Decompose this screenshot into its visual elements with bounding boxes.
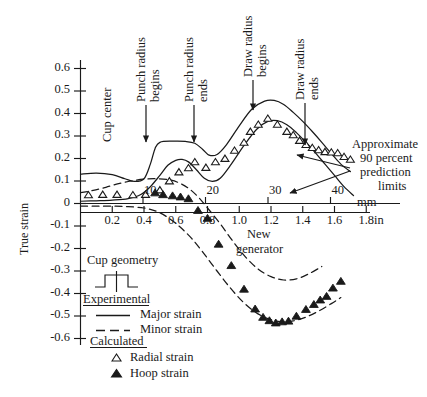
- radial-strain-marker: [230, 147, 238, 153]
- x-tick-label-in: 1.4: [293, 214, 313, 227]
- hoop-strain-marker: [240, 285, 249, 292]
- x-tick-label-mm: 30: [269, 184, 282, 197]
- y-tick-label: -0.4: [0, 286, 70, 299]
- annotation-prediction-limits-line3: prediction: [360, 166, 411, 179]
- legend-entry-major-strain: Major strain: [140, 308, 201, 321]
- x-tick-label-in: 1.6: [325, 214, 345, 227]
- hoop-strain-marker: [322, 292, 331, 299]
- series-paths: [81, 100, 354, 322]
- annotation-prediction-limits-line4: limits: [378, 180, 406, 193]
- y-tick-label: 0.3: [0, 128, 70, 141]
- y-tick-label: -0.2: [0, 241, 70, 254]
- radial-strain-marker: [129, 192, 137, 198]
- y-tick-label: -0.5: [0, 308, 70, 321]
- legend-cup-geometry-title: Cup geometry: [87, 254, 158, 267]
- legend-entry-minor-strain: Minor strain: [140, 323, 202, 336]
- x-tick-label-in: 1.0: [229, 214, 249, 227]
- radial-strain-marker: [211, 158, 219, 164]
- legend-open-triangle: [112, 354, 121, 361]
- annotation-prediction-limits-line1: Approximate: [352, 138, 418, 151]
- annotation-new-generator-line2: generator: [236, 243, 283, 256]
- hoop-strain-marker: [168, 192, 177, 199]
- radial-strain-marker: [113, 191, 121, 197]
- annotation-new-generator-line1: New: [247, 228, 271, 241]
- legend-entry-radial-strain: Radial strain: [130, 351, 194, 364]
- radial-strain-marker: [184, 165, 192, 171]
- radial-strain-marker: [175, 169, 183, 175]
- radial-strain-marker: [264, 115, 272, 121]
- x-tick-label-mm: 20: [207, 184, 220, 197]
- y-tick-label: 0.2: [0, 151, 70, 164]
- radial-strain-marker: [202, 164, 210, 170]
- radial-strain-marker: [191, 158, 199, 164]
- annotation-prediction-limits-line2: 90 percent: [360, 152, 412, 165]
- y-tick-label: 0.4: [0, 106, 70, 119]
- x-tick-label-mm: 10: [144, 184, 157, 197]
- hoop-strain-marker: [251, 305, 260, 312]
- hoop-strain-marker: [292, 312, 301, 319]
- annotation-punch-radius-begins-line1: Punch radius: [135, 37, 148, 102]
- annotation-draw-radius-ends-line2: ends: [308, 77, 321, 100]
- hoop-strain-marker: [336, 277, 345, 284]
- x-tick-label-mm: 40: [332, 184, 345, 197]
- radial-strain-marker: [99, 191, 107, 197]
- x-tick-label-in: 0.4: [134, 214, 154, 227]
- legend-heading-calculated: Calculated: [90, 335, 143, 348]
- y-tick-label: 0.5: [0, 83, 70, 96]
- x-tick-label-in: 0.2: [102, 214, 122, 227]
- y-tick-label: 0.1: [0, 173, 70, 186]
- hoop-strain-marker: [176, 193, 185, 200]
- radial-strain-marker: [254, 121, 262, 127]
- figure-root: True strain 0.60.50.40.30.20.10-0.1-0.2-…: [0, 0, 427, 397]
- annotation-draw-radius-begins-line1: Draw radius: [242, 16, 255, 77]
- hoop-strain-marker: [227, 262, 236, 269]
- legend-entry-hoop-strain: Hoop strain: [130, 367, 189, 380]
- legend-heading-experimental: Experimental: [83, 293, 150, 306]
- hoop-strain-marker: [214, 240, 223, 247]
- x-axis-unit-mm: mm: [357, 196, 376, 209]
- x-tick-label-in: 0.8: [198, 214, 218, 227]
- x-tick-label-in: 1.2: [261, 214, 281, 227]
- legend-filled-triangle: [112, 370, 122, 378]
- y-tick-label: -0.6: [0, 331, 70, 344]
- annotation-draw-radius-ends-line1: Draw radius: [294, 39, 307, 100]
- hoop-strain-marker: [184, 195, 193, 202]
- annotation-punch-radius-begins-line2: begins: [149, 69, 162, 102]
- y-tick-label: 0.6: [0, 61, 70, 74]
- x-axis-unit-in: in: [374, 214, 384, 227]
- annotation-draw-radius-begins-line2: begins: [256, 44, 269, 77]
- y-tick-label: -0.3: [0, 263, 70, 276]
- y-tick-label: -0.1: [0, 218, 70, 231]
- x-tick-label-in: 0.6: [166, 214, 186, 227]
- annotation-punch-radius-ends-line2: ends: [197, 79, 210, 102]
- cup-geometry-icon: [95, 271, 138, 292]
- hoop-strain-marker: [302, 306, 311, 313]
- series-path: [81, 100, 351, 181]
- hoop-strain-marker: [329, 284, 338, 291]
- radial-strain-marker: [84, 192, 92, 198]
- annotation-punch-radius-ends-line1: Punch radius: [183, 37, 196, 102]
- annotation-cup-center: Cup center: [101, 88, 114, 143]
- radial-strain-marker: [334, 149, 342, 155]
- radial-strain-marker: [246, 128, 254, 134]
- radial-strain-marker: [221, 155, 229, 161]
- radial-strain-marker: [283, 128, 291, 134]
- y-tick-label: 0: [0, 196, 70, 209]
